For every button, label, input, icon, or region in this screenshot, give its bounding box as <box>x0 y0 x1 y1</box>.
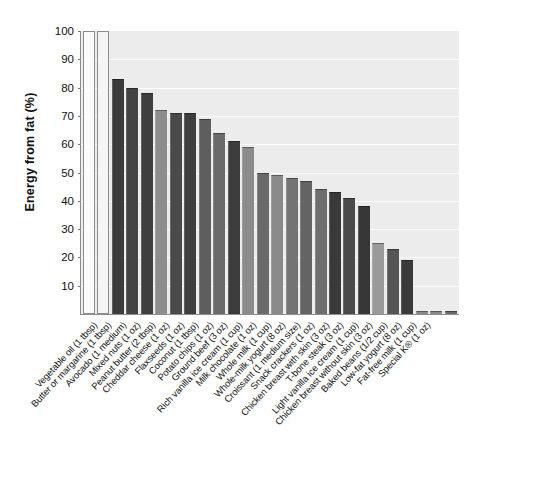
bar <box>83 31 95 314</box>
y-tick-label: 10 <box>48 280 74 291</box>
y-tick-label: 50 <box>48 167 74 178</box>
x-axis-category-labels: Vegetable oil (1 tbsp)Butter or margarin… <box>0 318 541 491</box>
y-tick-label: 100 <box>48 26 74 37</box>
bar <box>112 79 124 314</box>
y-tick-label: 70 <box>48 110 74 121</box>
y-tick-label: 80 <box>48 82 74 93</box>
bar <box>445 311 457 314</box>
y-tick-label: 60 <box>48 139 74 150</box>
bar <box>97 31 109 314</box>
bar-chart-figure: Energy from fat (%) 10203040506070809010… <box>0 0 541 491</box>
y-axis-title: Energy from fat (%) <box>23 52 37 252</box>
y-tick-label: 30 <box>48 224 74 235</box>
y-tick-label: 40 <box>48 195 74 206</box>
y-tick-label: 20 <box>48 252 74 263</box>
y-tick-label: 90 <box>48 54 74 65</box>
